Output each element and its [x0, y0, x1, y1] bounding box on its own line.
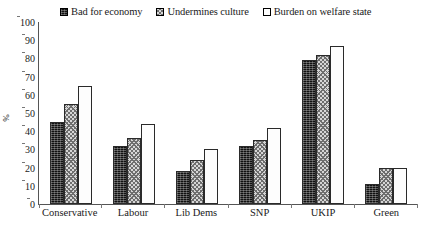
- bar: [141, 124, 155, 204]
- bar: [127, 138, 141, 204]
- y-axis-tick-mark: [22, 89, 26, 90]
- y-axis-tick-label: 20: [25, 162, 39, 173]
- legend-label-series-3: Burden on welfare state: [274, 7, 372, 18]
- bar-group: [229, 22, 292, 204]
- bar-group: [292, 22, 355, 204]
- y-axis-tick-label: 40: [25, 126, 39, 137]
- y-axis-tick-label: 90: [25, 35, 39, 46]
- y-axis-tick-mark: [22, 52, 26, 53]
- x-axis-category-label: Green: [355, 207, 418, 225]
- bar: [267, 128, 281, 204]
- bar: [302, 60, 316, 204]
- bar: [190, 160, 204, 204]
- y-axis-title: %: [1, 114, 11, 122]
- y-axis-tick-label: 70: [25, 71, 39, 82]
- bar: [176, 171, 190, 204]
- bar: [50, 122, 64, 204]
- bar: [64, 104, 78, 204]
- bar-group: [102, 22, 165, 204]
- y-axis-tick-mark: [22, 125, 26, 126]
- bar-groups: [39, 22, 418, 204]
- x-axis-labels: ConservativeLabourLib DemsSNPUKIPGreen: [38, 207, 418, 225]
- legend-label-series-1: Bad for economy: [71, 7, 142, 18]
- bar: [330, 46, 344, 204]
- y-axis-tick-mark: [22, 180, 26, 181]
- x-axis-category-label: SNP: [228, 207, 291, 225]
- bar: [78, 86, 92, 204]
- x-axis-category-label: UKIP: [291, 207, 354, 225]
- legend-label-series-2: Undermines culture: [167, 7, 248, 18]
- y-axis-tick-mark: [22, 71, 26, 72]
- bar-group: [355, 22, 418, 204]
- bar: [239, 146, 253, 204]
- bar: [393, 168, 407, 204]
- y-axis-tick-label: 60: [25, 89, 39, 100]
- y-axis-tick-mark: [22, 143, 26, 144]
- bar: [113, 146, 127, 204]
- x-axis-category-label: Conservative: [38, 207, 101, 225]
- bar-chart: Bad for economy Undermines culture Burde…: [0, 0, 424, 237]
- bar: [253, 140, 267, 204]
- bar: [379, 168, 393, 204]
- y-axis-tick-mark: [27, 198, 31, 199]
- y-axis-tick-label: 50: [25, 108, 39, 119]
- y-axis-tick-mark: [22, 34, 26, 35]
- y-axis-tick-mark: [22, 162, 26, 163]
- chart-legend: Bad for economy Undermines culture Burde…: [60, 4, 420, 20]
- y-axis-tick-label: 80: [25, 53, 39, 64]
- bar-group: [39, 22, 102, 204]
- legend-item-burden-on-welfare-state: Burden on welfare state: [263, 7, 372, 18]
- legend-swatch-icon-series-1: [60, 8, 68, 16]
- bar: [204, 149, 218, 204]
- legend-swatch-icon-series-2: [156, 8, 164, 16]
- y-axis-tick-mark: [22, 107, 26, 108]
- bar-group: [165, 22, 228, 204]
- x-axis-category-label: Labour: [101, 207, 164, 225]
- bar: [316, 55, 330, 204]
- legend-item-bad-for-economy: Bad for economy: [60, 7, 142, 18]
- y-axis-tick-mark: [17, 16, 21, 17]
- y-axis-tick-label: 10: [25, 180, 39, 191]
- legend-item-undermines-culture: Undermines culture: [156, 7, 248, 18]
- legend-swatch-icon-series-3: [263, 8, 271, 16]
- y-axis-tick-label: 30: [25, 144, 39, 155]
- bar: [365, 184, 379, 204]
- y-axis-tick-label: 100: [20, 17, 39, 28]
- x-axis-category-label: Lib Dems: [165, 207, 228, 225]
- plot-area: 0102030405060708090100: [38, 22, 418, 205]
